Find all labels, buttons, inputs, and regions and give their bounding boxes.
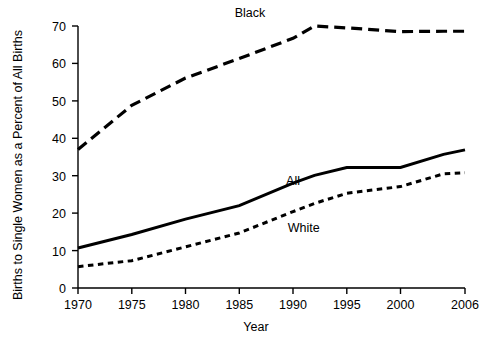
series-line-white (78, 173, 465, 267)
series-label-black: Black (235, 6, 266, 20)
x-tick-label: 1980 (172, 298, 200, 312)
x-tick-label: 1975 (118, 298, 146, 312)
y-tick-label: 20 (52, 207, 66, 221)
y-tick-label: 50 (52, 95, 66, 109)
x-tick-label: 1970 (64, 298, 92, 312)
y-axis-title: Births to Single Women as a Percent of A… (11, 30, 25, 300)
series-line-all (78, 150, 465, 248)
series-label-white: White (288, 221, 320, 235)
x-tick-label: 2006 (451, 298, 479, 312)
x-axis-ticks: 1970 1975 1980 1985 1990 1995 2000 2006 (64, 288, 479, 312)
y-tick-label: 70 (52, 20, 66, 34)
line-chart: Births to Single Women as a Percent of A… (0, 0, 493, 343)
y-tick-label: 40 (52, 132, 66, 146)
series-line-black (78, 26, 465, 150)
x-tick-label: 1990 (279, 298, 307, 312)
x-axis-title: Year (243, 320, 268, 334)
y-axis-ticks: 70 60 50 40 30 20 10 0 (52, 20, 78, 296)
series-label-all: All (286, 174, 300, 188)
chart-container: Births to Single Women as a Percent of A… (0, 0, 493, 343)
y-tick-label: 60 (52, 57, 66, 71)
y-tick-label: 30 (52, 170, 66, 184)
y-tick-label: 10 (52, 245, 66, 259)
y-tick-label: 0 (59, 282, 66, 296)
x-tick-label: 2000 (387, 298, 415, 312)
x-tick-label: 1985 (225, 298, 253, 312)
x-tick-label: 1995 (333, 298, 361, 312)
